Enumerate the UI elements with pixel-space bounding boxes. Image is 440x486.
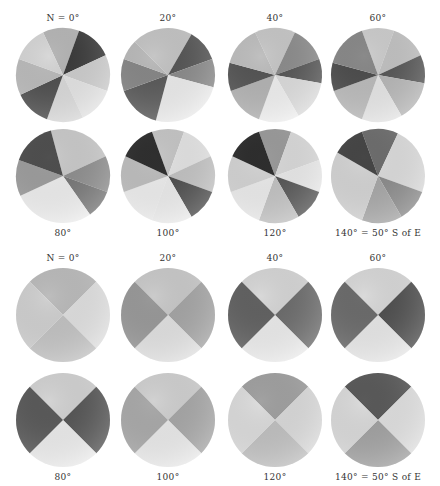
disk-angle-label: 60° <box>323 13 433 23</box>
disk-angle-label: N = 0° <box>8 13 118 23</box>
shading-disk <box>14 371 112 469</box>
shading-disk <box>329 266 427 364</box>
shading-disk <box>226 371 324 469</box>
disk-angle-label: 140° = 50° S of E <box>323 472 433 482</box>
shading-disk <box>119 26 217 124</box>
shading-disk <box>119 266 217 364</box>
shading-disk <box>329 127 427 225</box>
disk-angle-label: 100° <box>113 228 223 238</box>
shading-disk <box>119 371 217 469</box>
disk-angle-label: 120° <box>220 228 330 238</box>
shading-disk <box>226 266 324 364</box>
disk-angle-label: 20° <box>113 253 223 263</box>
disk-angle-label: 40° <box>220 13 330 23</box>
shading-disk <box>329 371 427 469</box>
disk-angle-label: 100° <box>113 472 223 482</box>
disk-angle-label: 80° <box>8 228 118 238</box>
shading-disk <box>14 127 112 225</box>
disk-angle-label: 80° <box>8 472 118 482</box>
disk-angle-label: N = 0° <box>8 253 118 263</box>
shading-disk <box>226 26 324 124</box>
shading-disk <box>329 26 427 124</box>
shading-disk <box>14 26 112 124</box>
shading-disk <box>226 127 324 225</box>
disk-angle-label: 40° <box>220 253 330 263</box>
disk-angle-label: 140° = 50° S of E <box>323 228 433 238</box>
disk-angle-label: 60° <box>323 253 433 263</box>
shading-disk <box>14 266 112 364</box>
disk-angle-label: 20° <box>113 13 223 23</box>
shading-disk <box>119 127 217 225</box>
disk-angle-label: 120° <box>220 472 330 482</box>
